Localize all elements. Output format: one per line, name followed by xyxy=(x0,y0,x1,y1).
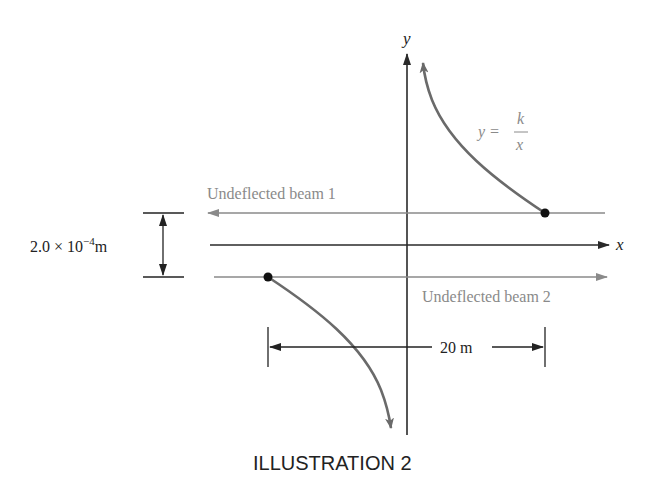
separation-exponent: −4 xyxy=(83,235,95,247)
separation-mantissa: 2.0 × 10 xyxy=(30,238,83,255)
beam-1-label: Undeflected beam 1 xyxy=(207,185,336,202)
separation-unit: m xyxy=(95,238,108,255)
equation-denominator: x xyxy=(515,136,523,153)
equation-numerator: k xyxy=(517,110,525,127)
distance-label: 20 m xyxy=(440,339,473,356)
beam-2-label: Undeflected beam 2 xyxy=(422,288,551,305)
hyperbola-beam-diagram: y x Undeflected beam 1 Undeflected beam … xyxy=(0,0,659,496)
illustration-caption: ILLUSTRATION 2 xyxy=(253,452,412,474)
beam-separation-dimension xyxy=(143,213,184,277)
y-axis-label: y xyxy=(401,29,411,48)
curve-equation: y = k x xyxy=(476,110,528,153)
lower-hyperbola-branch xyxy=(264,273,392,429)
deflection-point-1 xyxy=(541,209,550,218)
separation-label: 2.0 × 10−4m xyxy=(30,235,108,255)
equation-lhs: y = xyxy=(476,123,500,141)
upper-hyperbola-branch xyxy=(423,63,550,218)
x-axis-label: x xyxy=(615,235,624,254)
deflection-point-2 xyxy=(264,273,273,282)
